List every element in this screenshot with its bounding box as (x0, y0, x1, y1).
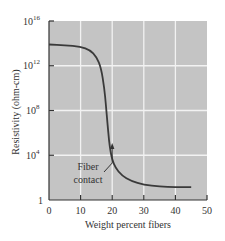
y-tick-1e4: 10 (26, 150, 36, 161)
x-axis-label: Weight percent fibers (85, 219, 171, 230)
x-tick-40: 40 (170, 205, 180, 216)
y-tick-1e4-exp: 4 (36, 148, 40, 156)
x-tick-10: 10 (76, 205, 86, 216)
y-tick-1e16: 10 (23, 16, 33, 27)
y-tick-1e12-exp: 12 (33, 58, 41, 66)
x-tick-30: 30 (139, 205, 149, 216)
y-tick-1e8: 10 (26, 105, 36, 116)
x-tick-50: 50 (202, 205, 212, 216)
x-tick-20: 20 (107, 205, 117, 216)
x-tick-labels: 0 10 20 30 40 50 (47, 205, 213, 216)
y-tick-1e8-exp: 8 (36, 103, 40, 111)
y-tick-1e12: 10 (23, 60, 33, 71)
y-axis-label: Resistivity (ohm-cm) (10, 69, 22, 154)
x-tick-0: 0 (47, 205, 52, 216)
y-tick-1: 1 (38, 195, 43, 206)
annotation-line1: Fiber (77, 161, 99, 172)
y-tick-labels: 1 10 4 10 8 10 12 10 16 (23, 14, 43, 206)
y-tick-1e16-exp: 16 (33, 14, 41, 22)
resistivity-chart: Fiber contact 0 10 20 30 40 50 1 10 4 10… (0, 0, 225, 241)
annotation-line2: contact (74, 174, 103, 185)
